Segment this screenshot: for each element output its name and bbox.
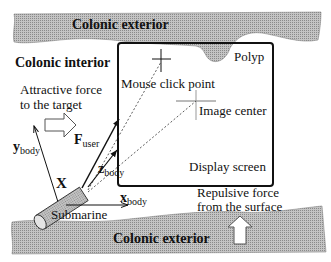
display-screen-label: Display screen [189,160,266,173]
top-exterior-label: Colonic exterior [72,18,169,32]
image-center-label: Image center [199,104,266,117]
repulsive-force-label-1: Repulsive force [197,186,279,199]
x-body-label: xbody [120,191,147,207]
interior-label: Colonic interior [15,56,110,70]
attractive-force-label-2: to the target [20,98,82,111]
attractive-force-arrow [45,113,76,137]
mouse-click-point-label: Mouse click point [121,77,215,90]
origin-label: X [56,176,67,191]
y-body-label: ybody [13,140,40,156]
repulsive-force-label-2: from the surface [197,200,282,213]
z-body-label: zbody [98,162,124,178]
submarine-label: Submarine [51,208,107,221]
attractive-force-label-1: Attractive force [20,83,102,96]
polyp-label: Polyp [234,50,264,63]
bottom-exterior-label: Colonic exterior [113,232,210,246]
diagram-canvas [0,0,331,262]
f-user-label: Fuser [74,133,99,149]
